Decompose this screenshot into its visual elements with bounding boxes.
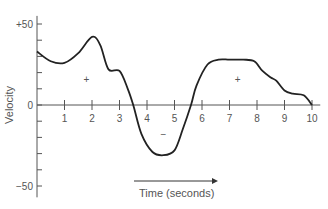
y-tick-label: +50 [16, 19, 33, 30]
x-tick-label: 9 [282, 113, 288, 124]
x-tick-label: 1 [62, 113, 68, 124]
velocity-curve [37, 37, 312, 156]
sign-annotation: − [161, 129, 167, 140]
sign-annotations: +−+ [84, 74, 241, 140]
x-tick-label: 7 [227, 113, 233, 124]
x-axis-label: Time (seconds) [139, 187, 214, 199]
y-tick-label: 0 [27, 100, 33, 111]
y-axis-label: Velocity [3, 86, 15, 124]
x-tick-label: 6 [199, 113, 205, 124]
x-tick-label: 2 [89, 113, 95, 124]
x-tick-label: 10 [306, 113, 318, 124]
arrow-head-icon [212, 178, 218, 184]
sign-annotation: + [235, 74, 241, 85]
y-tick-label: −50 [16, 181, 33, 192]
axes: +500−5012345678910 [16, 16, 320, 197]
x-tick-label: 8 [254, 113, 260, 124]
sign-annotation: + [84, 74, 90, 85]
x-tick-label: 3 [117, 113, 123, 124]
x-tick-label: 4 [144, 113, 150, 124]
x-tick-label: 5 [172, 113, 178, 124]
velocity-chart: +500−5012345678910 +−+ Velocity Time (se… [0, 0, 328, 209]
